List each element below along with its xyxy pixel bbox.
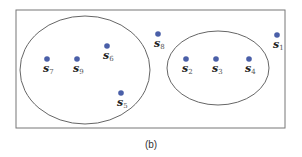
point-dot [118, 90, 124, 96]
point-label: s7 [43, 62, 54, 76]
point-dot [74, 56, 80, 62]
point-s5: s5 [117, 90, 128, 110]
point-s2: s2 [182, 56, 193, 76]
point-label: s3 [212, 62, 223, 76]
point-s4: s4 [245, 56, 256, 76]
left-cluster-ellipse [20, 16, 150, 124]
point-s8: s8 [154, 31, 165, 51]
point-dot [246, 56, 252, 62]
point-label: s4 [245, 62, 256, 76]
point-label: s9 [73, 62, 84, 76]
point-label: s5 [117, 96, 128, 110]
point-s6: s6 [103, 43, 114, 63]
point-dot [274, 32, 280, 38]
point-dot [155, 31, 161, 37]
point-dot [213, 56, 219, 62]
figure-caption: (b) [145, 139, 157, 150]
point-s3: s3 [212, 56, 223, 76]
point-dot [104, 43, 110, 49]
point-s7: s7 [43, 56, 54, 76]
point-label: s1 [273, 38, 284, 52]
point-s9: s9 [73, 56, 84, 76]
point-label: s8 [154, 37, 165, 51]
point-dot [44, 56, 50, 62]
point-label: s2 [182, 62, 193, 76]
point-label: s6 [103, 49, 114, 63]
clusters [20, 16, 269, 124]
point-dot [183, 56, 189, 62]
cluster-diagram: s1s2s3s4s5s6s7s8s9 (b) [0, 0, 302, 157]
point-s1: s1 [273, 32, 284, 52]
